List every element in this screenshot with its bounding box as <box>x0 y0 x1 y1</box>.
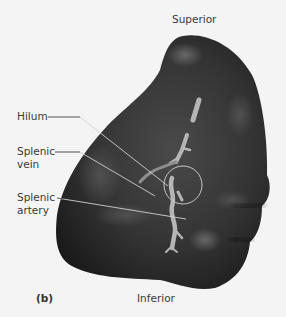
label-splenic-vein-line2: vein <box>17 158 55 171</box>
label-inferior: Inferior <box>137 292 175 305</box>
label-hilum: Hilum <box>17 110 48 123</box>
label-splenic-vein-line1: Splenic <box>17 145 55 158</box>
panel-label: (b) <box>36 292 53 305</box>
label-splenic-artery: Splenic artery <box>17 191 55 217</box>
label-splenic-artery-line1: Splenic <box>17 191 55 204</box>
label-superior: Superior <box>172 13 216 26</box>
label-splenic-vein: Splenic vein <box>17 145 55 171</box>
spleen-organ <box>56 35 270 289</box>
label-splenic-artery-line2: artery <box>17 204 55 217</box>
